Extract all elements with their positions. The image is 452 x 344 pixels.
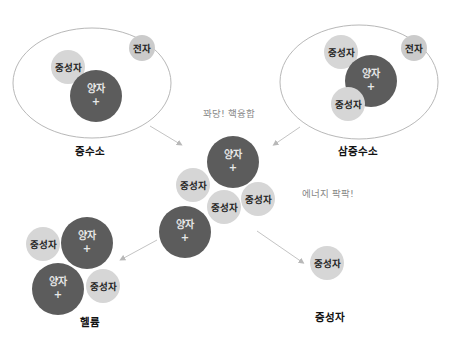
neutron: 중성자 <box>86 269 120 303</box>
proton: 양자 + <box>61 217 113 269</box>
neutron: 중성자 <box>26 227 60 261</box>
electron: 전자 <box>401 35 427 61</box>
arrow-icon <box>150 126 180 144</box>
proton: 양자 + <box>32 263 84 315</box>
svg-text:중성자: 중성자 <box>90 281 117 292</box>
neutron: 중성자 <box>207 190 241 224</box>
svg-text:양자: 양자 <box>362 67 381 79</box>
neutron: 중성자 <box>331 87 365 121</box>
helium-label: 헬륨 <box>80 316 100 328</box>
proton: 양자 + <box>70 70 122 122</box>
svg-text:전자: 전자 <box>405 43 423 54</box>
neutron: 중성자 <box>241 182 275 216</box>
fusion-note: 꽈당! 핵융합 <box>203 108 255 119</box>
neutron: 중성자 <box>176 168 210 202</box>
svg-text:양자: 양자 <box>176 218 195 230</box>
svg-text:전자: 전자 <box>133 43 151 54</box>
tritium-label: 삼중수소 <box>338 145 378 157</box>
svg-text:중성자: 중성자 <box>211 202 238 213</box>
svg-text:중성자: 중성자 <box>328 47 355 58</box>
proton: 양자 + <box>159 206 211 258</box>
neutron-label: 중성자 <box>315 311 345 323</box>
svg-text:+: + <box>367 81 375 92</box>
svg-text:양자: 양자 <box>78 229 97 241</box>
arrow-icon <box>257 231 302 262</box>
proton: 양자 + <box>207 136 259 188</box>
svg-text:중성자: 중성자 <box>314 258 341 269</box>
svg-text:중성자: 중성자 <box>30 239 57 250</box>
svg-text:+: + <box>229 162 237 173</box>
svg-text:중성자: 중성자 <box>245 194 272 205</box>
deuterium-atom: 전자 중성자 양자 + 중수소 <box>13 28 171 157</box>
energy-note: 에너지 팍팍! <box>302 188 354 199</box>
arrow-icon <box>275 127 300 144</box>
svg-text:중성자: 중성자 <box>55 62 82 73</box>
svg-text:중성자: 중성자 <box>180 180 207 191</box>
svg-text:+: + <box>181 232 189 243</box>
arrow-icon <box>122 240 157 259</box>
fusion-diagram: 전자 중성자 양자 + 중수소 전자 중성자 양자 + 중성자 <box>0 0 452 344</box>
svg-text:양자: 양자 <box>224 148 243 160</box>
fusion-cluster: 양자 + 중성자 중성자 중성자 양자 + <box>159 136 275 258</box>
svg-text:양자: 양자 <box>87 82 106 94</box>
electron: 전자 <box>129 35 155 61</box>
free-neutron: 중성자 중성자 <box>310 246 345 323</box>
helium-atom: 중성자 양자 + 양자 + 중성자 헬륨 <box>26 217 120 328</box>
svg-text:양자: 양자 <box>49 275 68 287</box>
svg-text:+: + <box>92 96 100 107</box>
svg-text:중성자: 중성자 <box>335 99 362 110</box>
svg-text:+: + <box>54 289 62 300</box>
svg-text:+: + <box>83 243 91 254</box>
tritium-atom: 전자 중성자 양자 + 중성자 삼중수소 <box>280 25 438 157</box>
deuterium-label: 중수소 <box>75 145 105 157</box>
